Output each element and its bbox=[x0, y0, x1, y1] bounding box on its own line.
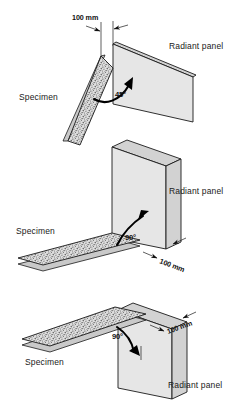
radiant-panel-test-diagram: 100 mm Radiant panel Specimen 45° Radian… bbox=[0, 0, 247, 412]
middle-radiant-panel-side-edge bbox=[166, 159, 181, 249]
middle-angle-label: 90° bbox=[125, 233, 136, 242]
top-angle-label: 45° bbox=[115, 90, 126, 99]
bottom-angle-label: 90° bbox=[112, 332, 123, 341]
top-specimen-label: Specimen bbox=[19, 92, 58, 102]
bottom-specimen-label: Specimen bbox=[25, 357, 64, 367]
top-dimension-label: 100 mm bbox=[72, 13, 98, 22]
bottom-radiant-panel-label: Radiant panel bbox=[168, 380, 222, 390]
middle-specimen-label: Specimen bbox=[16, 226, 55, 236]
middle-radiant-panel-label: Radiant panel bbox=[169, 186, 223, 196]
top-radiant-panel-label: Radiant panel bbox=[169, 41, 223, 51]
